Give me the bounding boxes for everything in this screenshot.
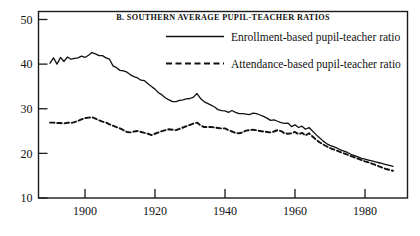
x-tick-label: 1900	[73, 204, 97, 218]
chart-figure: 1020304050 19001920194019601980 B. SOUTH…	[0, 0, 420, 236]
legend-label-attendance: Attendance-based pupil-teacher ratio	[231, 58, 401, 71]
y-axis-tick-labels: 1020304050	[21, 13, 33, 206]
y-tick-label: 10	[21, 191, 33, 205]
data-series-group	[50, 53, 393, 171]
chart-legend: Enrollment-based pupil-teacher ratio Att…	[166, 31, 401, 71]
x-tick-label: 1940	[213, 204, 237, 218]
x-axis-tick-labels: 19001920194019601980	[73, 204, 377, 218]
x-tick-label: 1980	[353, 204, 377, 218]
chart-title: B. SOUTHERN AVERAGE PUPIL-TEACHER RATIOS	[116, 13, 330, 22]
series-line-enrollment	[50, 53, 393, 167]
x-tick-label: 1920	[143, 204, 167, 218]
y-axis-ticks	[39, 20, 48, 199]
y-tick-label: 20	[21, 147, 33, 161]
x-tick-label: 1960	[283, 204, 307, 218]
series-line-attendance	[50, 117, 393, 171]
y-tick-label: 40	[21, 57, 33, 71]
y-tick-label: 30	[21, 102, 33, 116]
legend-label-enrollment: Enrollment-based pupil-teacher ratio	[231, 31, 400, 44]
y-tick-label: 50	[21, 13, 33, 27]
x-axis-ticks	[85, 189, 365, 198]
pupil-teacher-ratio-chart: 1020304050 19001920194019601980 B. SOUTH…	[0, 0, 420, 236]
